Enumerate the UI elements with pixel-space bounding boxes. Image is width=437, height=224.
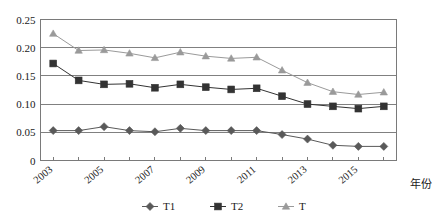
- y-tick-label: 0: [30, 155, 36, 167]
- data-point-T2: [253, 85, 260, 92]
- legend-marker-T2: [215, 203, 222, 210]
- x-tick-label: 2011: [235, 164, 258, 186]
- y-tick-label: 0.10: [16, 98, 36, 110]
- x-axis-title-text: 年份: [410, 177, 432, 190]
- data-point-T: [304, 79, 311, 85]
- y-tick-label: 0.25: [16, 14, 36, 26]
- data-point-T: [380, 89, 387, 95]
- legend-label-T1: T1: [163, 200, 175, 212]
- series-T1: [49, 123, 388, 151]
- data-point-T1: [304, 135, 312, 143]
- data-point-T1: [176, 124, 184, 132]
- data-point-T1: [151, 128, 159, 136]
- chart-legend: T1T2T: [142, 200, 306, 212]
- data-point-T2: [279, 93, 286, 100]
- x-tick-label: 2005: [82, 164, 105, 186]
- legend-item-T1[interactable]: T1: [142, 200, 175, 212]
- line-chart: 00.050.100.150.200.25 200320052007200920…: [0, 0, 437, 224]
- data-point-T1: [126, 127, 134, 135]
- data-point-T2: [50, 60, 57, 67]
- legend-item-T[interactable]: T: [278, 200, 306, 212]
- data-point-T2: [126, 80, 133, 87]
- data-point-T2: [75, 77, 82, 84]
- plot-area-border: [41, 20, 397, 161]
- data-point-T1: [253, 127, 261, 135]
- data-point-T2: [101, 81, 108, 88]
- data-point-T1: [354, 142, 362, 150]
- data-point-T2: [177, 81, 184, 88]
- legend-label-T2: T2: [231, 200, 243, 212]
- x-tick-label: 2013: [286, 164, 309, 186]
- data-point-T: [278, 67, 285, 73]
- legend-label-T: T: [299, 200, 306, 212]
- x-tick-label: 2007: [133, 164, 156, 186]
- data-point-T1: [49, 127, 57, 135]
- data-point-T2: [202, 84, 209, 91]
- legend-marker-T1: [146, 203, 154, 211]
- data-point-T1: [75, 127, 83, 135]
- data-point-T: [177, 49, 184, 55]
- data-point-T2: [355, 105, 362, 112]
- x-axis-ticks: [53, 157, 384, 161]
- y-tick-label: 0.20: [16, 42, 36, 54]
- data-point-T1: [380, 142, 388, 150]
- data-point-T1: [202, 127, 210, 135]
- y-tick-label: 0.15: [16, 70, 36, 82]
- data-point-T1: [100, 123, 108, 131]
- data-point-T2: [380, 103, 387, 110]
- x-tick-label: 2003: [31, 164, 54, 186]
- data-point-T1: [329, 141, 337, 149]
- series-T: [50, 30, 388, 97]
- data-point-T2: [152, 84, 159, 91]
- data-point-T1: [227, 127, 235, 135]
- y-tick-label: 0.05: [16, 126, 36, 138]
- legend-item-T2[interactable]: T2: [210, 200, 243, 212]
- data-point-T: [253, 54, 260, 60]
- data-point-T2: [330, 103, 337, 110]
- data-point-T2: [228, 86, 235, 93]
- gridlines: [41, 20, 397, 133]
- plot-frame: [41, 20, 397, 161]
- x-tick-label: 2009: [184, 164, 207, 186]
- data-point-T2: [304, 101, 311, 108]
- chart-canvas: 00.050.100.150.200.25 200320052007200920…: [0, 0, 437, 224]
- data-point-T: [50, 30, 57, 36]
- data-point-T1: [278, 131, 286, 139]
- y-axis-tick-labels: 00.050.100.150.200.25: [16, 14, 36, 167]
- x-tick-label: 2015: [336, 164, 359, 186]
- x-axis-tick-labels: 2003200520072009201120132015: [31, 164, 359, 186]
- x-axis-title: 年份: [410, 177, 432, 190]
